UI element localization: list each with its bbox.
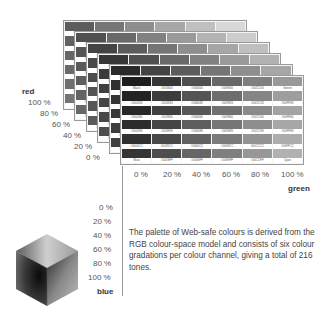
color-swatch: #003333 — [152, 91, 181, 105]
color-swatch: #003366 — [152, 106, 181, 120]
swatch-label: Cyan — [273, 158, 302, 163]
red-tick-60: 60 % — [52, 120, 70, 129]
green-tick-80: 80 % — [251, 170, 269, 179]
red-axis-title: red — [22, 87, 34, 96]
color-swatch: #000066 — [122, 106, 151, 120]
color-swatch: #006633 — [182, 91, 211, 105]
color-swatch: #009933 — [212, 91, 241, 105]
color-swatch: #00CC33 — [243, 91, 272, 105]
green-axis-title: green — [288, 184, 310, 193]
color-swatch: Black — [122, 77, 151, 91]
color-swatch: #006600 — [182, 77, 211, 91]
color-swatch: Green — [273, 77, 302, 91]
blue-tick-20: 20 % — [93, 217, 111, 226]
swatch-label: Blue — [122, 158, 151, 163]
color-swatch: #00FF33 — [273, 91, 302, 105]
color-swatch: #000099 — [122, 120, 151, 134]
color-swatch: #00CC66 — [243, 106, 272, 120]
color-swatch: #00FFCC — [273, 134, 302, 148]
color-swatch: #00FF99 — [273, 120, 302, 134]
color-swatch: #009966 — [212, 106, 241, 120]
red-tick-80: 80 % — [40, 109, 58, 118]
rgb-cube-icon — [14, 232, 80, 308]
color-swatch: #0066FF — [182, 149, 211, 163]
blue-tick-60: 60 % — [93, 245, 111, 254]
color-swatch: #0033CC — [152, 134, 181, 148]
red-tick-20: 20 % — [74, 142, 92, 151]
green-tick-40: 40 % — [192, 170, 210, 179]
color-swatch: #00CCFF — [243, 149, 272, 163]
green-tick-60: 60 % — [222, 170, 240, 179]
color-swatch: #006699 — [182, 120, 211, 134]
blue-tick-40: 40 % — [93, 231, 111, 240]
blue-axis-line — [122, 166, 123, 296]
red-tick-100: 100 % — [28, 98, 51, 107]
color-swatch: #0066CC — [182, 134, 211, 148]
blue-tick-80: 80 % — [93, 259, 111, 268]
green-tick-0: 0 % — [134, 170, 148, 179]
green-tick-20: 20 % — [163, 170, 181, 179]
color-swatch: #0099CC — [212, 134, 241, 148]
color-swatch: #0033FF — [152, 149, 181, 163]
blue-tick-0: 0 % — [99, 203, 113, 212]
green-tick-100: 100 % — [281, 170, 304, 179]
description-paragraph: The palette of Web-safe colours is deriv… — [129, 227, 319, 273]
color-swatch: #003300 — [152, 77, 181, 91]
color-swatch: #000033 — [122, 91, 151, 105]
blue-tick-100: 100 % — [88, 273, 111, 282]
color-swatch: #009999 — [212, 120, 241, 134]
red-tick-40: 40 % — [63, 131, 81, 140]
color-swatch: #0000CC — [122, 134, 151, 148]
palette-layer-red-0: Black#003300#006600#009900#00CC00Green#0… — [120, 75, 304, 165]
swatch-label: #0033FF — [152, 158, 181, 163]
color-swatch: #0099FF — [212, 149, 241, 163]
color-swatch: #006666 — [182, 106, 211, 120]
swatch-label: #00CCFF — [243, 158, 272, 163]
color-swatch: #00CC00 — [243, 77, 272, 91]
color-swatch: #00FF66 — [273, 106, 302, 120]
color-swatch: #00CC99 — [243, 120, 272, 134]
color-swatch: #00CCCC — [243, 134, 272, 148]
color-swatch: #003399 — [152, 120, 181, 134]
color-swatch: Blue — [122, 149, 151, 163]
color-swatch: #009900 — [212, 77, 241, 91]
swatch-label: #0066FF — [182, 158, 211, 163]
blue-axis-title: blue — [97, 287, 113, 296]
red-tick-0: 0 % — [86, 153, 100, 162]
swatch-label: #0099FF — [212, 158, 241, 163]
color-swatch: Cyan — [273, 149, 302, 163]
